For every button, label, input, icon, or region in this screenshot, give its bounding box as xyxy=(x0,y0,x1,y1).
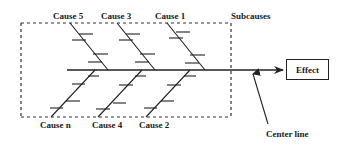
cause-label-bottom-2: Cause 4 xyxy=(92,121,122,130)
cause-label-top-3: Cause 1 xyxy=(155,12,185,21)
cause-label-top-2: Cause 3 xyxy=(101,12,131,21)
cause-label-top-1: Cause 5 xyxy=(53,12,83,21)
cause-label-bottom-3: Cause 2 xyxy=(139,121,169,130)
cause-label-bottom-1: Cause n xyxy=(40,121,71,130)
effect-box: Effect xyxy=(286,59,329,80)
subcauses-label: Subcauses xyxy=(231,12,271,21)
effect-label: Effect xyxy=(296,65,319,75)
fishbone-diagram: Cause 5 Cause 3 Cause 1 Subcauses Cause … xyxy=(0,0,343,146)
center-line-pointer xyxy=(253,74,268,124)
center-line-label: Center line xyxy=(266,130,309,139)
bottom-bones xyxy=(50,70,196,117)
top-bones xyxy=(70,23,205,70)
